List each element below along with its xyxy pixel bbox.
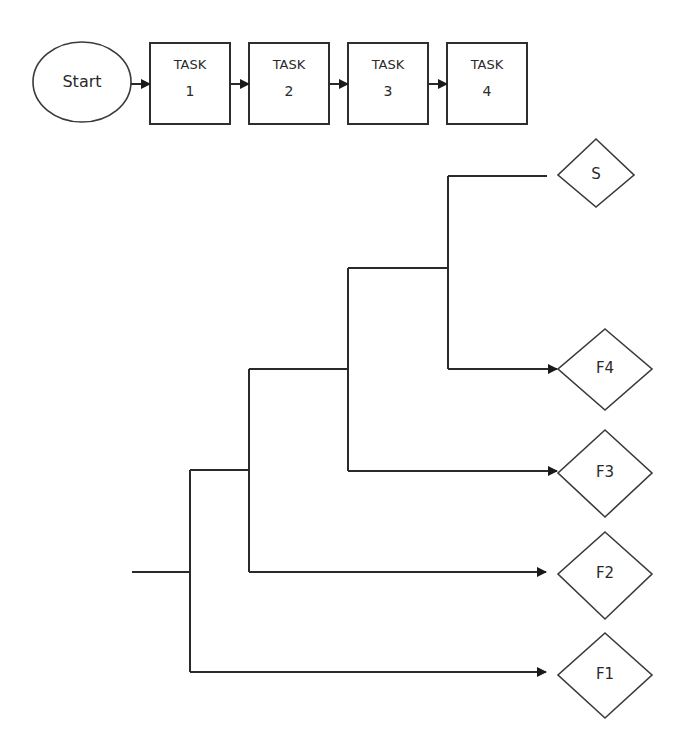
outcome-f4-diamond xyxy=(558,329,652,410)
outcome-f2-diamond xyxy=(558,532,652,619)
task-node-2 xyxy=(249,43,329,124)
task-node-1 xyxy=(150,43,230,124)
diagram-canvas xyxy=(0,0,692,754)
outcome-f3-diamond xyxy=(558,430,652,517)
outcome-s-diamond xyxy=(558,139,634,207)
task-node-4 xyxy=(447,43,527,124)
outcome-f1-diamond xyxy=(558,633,652,718)
task-node-3 xyxy=(348,43,428,124)
start-node xyxy=(33,42,131,122)
